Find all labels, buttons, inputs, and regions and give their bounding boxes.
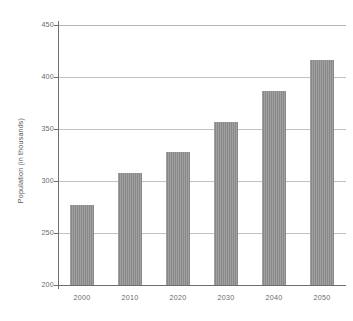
- y-axis-title: Population (in thousands): [14, 0, 28, 321]
- y-tick-label: 300: [14, 177, 54, 185]
- x-axis-line: [58, 285, 346, 286]
- x-tick-label: 2030: [202, 293, 250, 302]
- bar: [166, 152, 191, 285]
- x-tick-label: 2050: [298, 293, 346, 302]
- y-tick-label: 250: [14, 229, 54, 237]
- y-tick-label: 450: [14, 21, 54, 29]
- bar: [262, 91, 287, 285]
- bar-chart: Population (in thousands) 20025030035040…: [0, 0, 353, 321]
- bar: [70, 205, 95, 285]
- bar: [214, 122, 239, 285]
- bar: [118, 173, 143, 285]
- bars: [58, 25, 346, 285]
- x-tick-label: 2010: [106, 293, 154, 302]
- x-tick-label: 2000: [58, 293, 106, 302]
- bar: [310, 60, 335, 285]
- x-tick-label: 2020: [154, 293, 202, 302]
- y-tick-mark: [54, 285, 59, 286]
- y-tick-label: 350: [14, 125, 54, 133]
- x-tick-label: 2040: [250, 293, 298, 302]
- y-tick-label: 200: [14, 281, 54, 289]
- y-tick-label: 400: [14, 73, 54, 81]
